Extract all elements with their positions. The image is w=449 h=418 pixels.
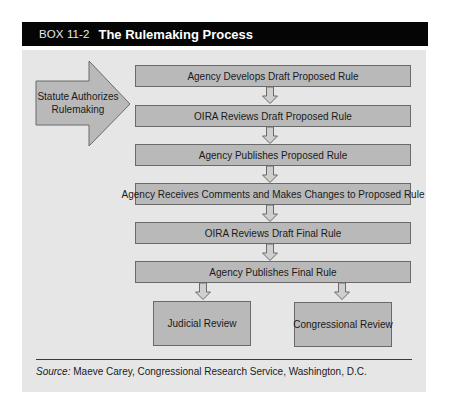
- down-arrow-icon: [334, 283, 350, 300]
- source-note: Source: Maeve Carey, Congressional Resea…: [36, 366, 367, 377]
- step-agency-develops-draft-proposed-rule: Agency Develops Draft Proposed Rule: [135, 65, 411, 87]
- start-node-statute-authorizes-rulemaking: Statute Authorizes Rulemaking: [37, 90, 119, 116]
- box-number: BOX 11-2: [39, 28, 89, 40]
- judicial-review-box: Judicial Review: [153, 301, 251, 346]
- down-arrow-icon: [262, 87, 278, 104]
- step-oira-reviews-draft-proposed-rule: OIRA Reviews Draft Proposed Rule: [135, 105, 411, 127]
- step-agency-publishes-final-rule: Agency Publishes Final Rule: [135, 261, 411, 283]
- step-agency-receives-comments: Agency Receives Comments and Makes Chang…: [135, 183, 411, 205]
- down-arrow-icon: [262, 244, 278, 261]
- start-label-line2: Rulemaking: [37, 103, 119, 116]
- start-label-line1: Statute Authorizes: [37, 90, 119, 103]
- box-header: BOX 11-2 The Rulemaking Process: [22, 22, 428, 46]
- step-oira-reviews-draft-final-rule: OIRA Reviews Draft Final Rule: [135, 222, 411, 244]
- congressional-review-box: Congressional Review: [294, 302, 392, 347]
- down-arrow-icon: [262, 166, 278, 183]
- box-title: The Rulemaking Process: [98, 27, 253, 42]
- source-label: Source:: [36, 366, 70, 377]
- source-text: Maeve Carey, Congressional Research Serv…: [70, 366, 366, 377]
- down-arrow-icon: [262, 127, 278, 144]
- divider-line: [36, 359, 412, 360]
- step-agency-publishes-proposed-rule: Agency Publishes Proposed Rule: [135, 144, 411, 166]
- down-arrow-icon: [262, 205, 278, 222]
- down-arrow-icon: [195, 283, 211, 300]
